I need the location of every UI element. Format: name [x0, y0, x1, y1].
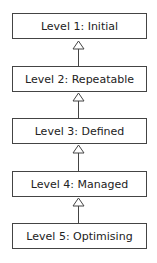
- level-label: Level 4: Managed: [31, 178, 128, 191]
- level-2-box: Level 2: Repeatable: [12, 66, 147, 92]
- arrow-icon: [73, 145, 84, 171]
- level-4-box: Level 4: Managed: [12, 171, 147, 197]
- level-label: Level 5: Optimising: [26, 230, 132, 243]
- arrow-icon: [73, 198, 84, 223]
- level-1-box: Level 1: Initial: [12, 13, 147, 39]
- level-label: Level 1: Initial: [41, 20, 118, 33]
- arrow-icon: [73, 93, 84, 118]
- level-label: Level 2: Repeatable: [25, 73, 134, 86]
- arrow-icon: [73, 41, 84, 66]
- level-5-box: Level 5: Optimising: [12, 223, 147, 249]
- level-3-box: Level 3: Defined: [12, 118, 147, 144]
- level-label: Level 3: Defined: [35, 125, 125, 138]
